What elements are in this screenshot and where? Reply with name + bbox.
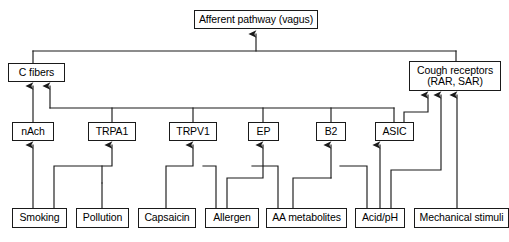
node-trpv1-label: TRPV1 [176, 126, 209, 137]
node-cough-receptors-label: Cough receptors (RAR, SAR) [417, 65, 493, 88]
node-c-fibers[interactable]: C fibers [8, 63, 65, 82]
diagram-connectors-layer [0, 0, 509, 242]
node-trpv1[interactable]: TRPV1 [169, 122, 217, 141]
node-aa-metabolites[interactable]: AA metabolites [266, 208, 347, 228]
node-pollution[interactable]: Pollution [76, 208, 129, 228]
node-pollution-label: Pollution [83, 212, 122, 223]
node-acid-ph[interactable]: Acid/pH [355, 208, 405, 228]
node-b2[interactable]: B2 [316, 122, 346, 141]
node-afferent-pathway[interactable]: Afferent pathway (vagus) [194, 10, 318, 29]
edge-smoking-to-trpa1 [54, 145, 112, 208]
node-mechanical-stimuli[interactable]: Mechanical stimuli [414, 208, 509, 228]
node-asic-label: ASIC [382, 126, 406, 137]
node-smoking[interactable]: Smoking [12, 208, 67, 228]
node-cough-receptors[interactable]: Cough receptors (RAR, SAR) [409, 61, 501, 91]
node-capsaicin-label: Capsaicin [144, 212, 189, 223]
node-nach-label: nAch [21, 126, 45, 137]
edge-allergen-to-trpv1 [203, 166, 216, 208]
node-allergen-label: Allergen [213, 212, 251, 223]
node-mechanical-stimuli-label: Mechanical stimuli [420, 212, 504, 223]
node-trpa1[interactable]: TRPA1 [88, 122, 136, 141]
node-capsaicin[interactable]: Capsaicin [138, 208, 196, 228]
node-allergen[interactable]: Allergen [205, 208, 259, 228]
node-ep[interactable]: EP [248, 122, 279, 141]
node-ep-label: EP [257, 126, 271, 137]
edge-acid-to-b2 [340, 166, 367, 208]
cough-reflex-diagram: Afferent pathway (vagus) C fibers Cough … [0, 0, 509, 242]
node-asic[interactable]: ASIC [375, 122, 414, 141]
node-b2-label: B2 [325, 126, 338, 137]
node-acid-ph-label: Acid/pH [362, 212, 398, 223]
edge-allergen-to-ep [227, 145, 263, 208]
edge-aa-metabolites-to-b2 [293, 178, 331, 208]
node-trpa1-label: TRPA1 [96, 126, 129, 137]
edge-asic-to-cough-receptors [404, 95, 428, 122]
edge-aa-metabolites-to-ep [252, 166, 278, 208]
node-aa-metabolites-label: AA metabolites [272, 212, 341, 223]
node-afferent-pathway-label: Afferent pathway (vagus) [199, 14, 313, 25]
node-c-fibers-label: C fibers [19, 67, 54, 78]
edge-capsaicin-to-trpv1 [166, 145, 193, 208]
node-smoking-label: Smoking [19, 212, 59, 223]
node-nach[interactable]: nAch [12, 122, 54, 141]
